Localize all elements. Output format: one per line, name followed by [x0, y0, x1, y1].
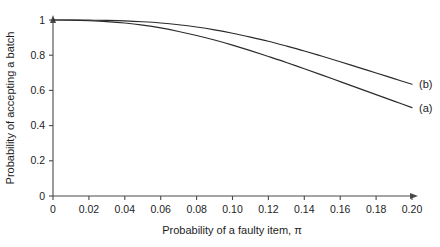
y-axis-title: Probability of accepting a batch — [4, 32, 16, 185]
y-axis-arrow-icon — [50, 15, 56, 23]
x-tick-label: 0.02 — [79, 203, 100, 215]
y-tick-label: 1 — [39, 14, 45, 26]
curve-label-a: (a) — [419, 102, 432, 114]
y-tick-label: 0.8 — [30, 49, 45, 61]
probability-of-acceptance-chart: 00.20.40.60.81 Probability of accepting … — [0, 0, 440, 247]
y-tick-label: 0.6 — [30, 84, 45, 96]
x-tick-label: 0.10 — [222, 203, 243, 215]
x-axis-group: 00.020.040.060.080.100.120.140.160.180.2… — [50, 193, 422, 236]
x-tick-label: 0.14 — [294, 203, 315, 215]
x-tick-label: 0.12 — [258, 203, 279, 215]
y-axis-group: 00.20.40.60.81 Probability of accepting … — [4, 14, 56, 202]
x-tick-label: 0.06 — [150, 203, 171, 215]
x-axis-ticks — [53, 196, 412, 200]
curve-b — [53, 20, 412, 84]
series-inline-labels: (a)(b) — [419, 78, 432, 113]
chart-canvas: 00.20.40.60.81 Probability of accepting … — [0, 0, 440, 247]
series-curves — [53, 20, 412, 108]
x-tick-label: 0.08 — [186, 203, 207, 215]
curve-label-b: (b) — [419, 78, 432, 90]
y-tick-label: 0.2 — [30, 154, 45, 166]
y-tick-label: 0.4 — [30, 119, 45, 131]
x-tick-label: 0 — [50, 203, 56, 215]
x-tick-label: 0.04 — [115, 203, 136, 215]
y-axis-ticks — [49, 20, 53, 196]
x-axis-title: Probability of a faulty item, π — [162, 224, 302, 236]
x-axis-arrow-icon — [410, 193, 418, 199]
y-axis-tick-labels: 00.20.40.60.81 — [30, 14, 45, 202]
x-tick-label: 0.18 — [366, 203, 387, 215]
x-axis-tick-labels: 00.020.040.060.080.100.120.140.160.180.2… — [50, 203, 422, 215]
y-tick-label: 0 — [39, 190, 45, 202]
x-tick-label: 0.16 — [330, 203, 351, 215]
x-tick-label: 0.20 — [402, 203, 423, 215]
